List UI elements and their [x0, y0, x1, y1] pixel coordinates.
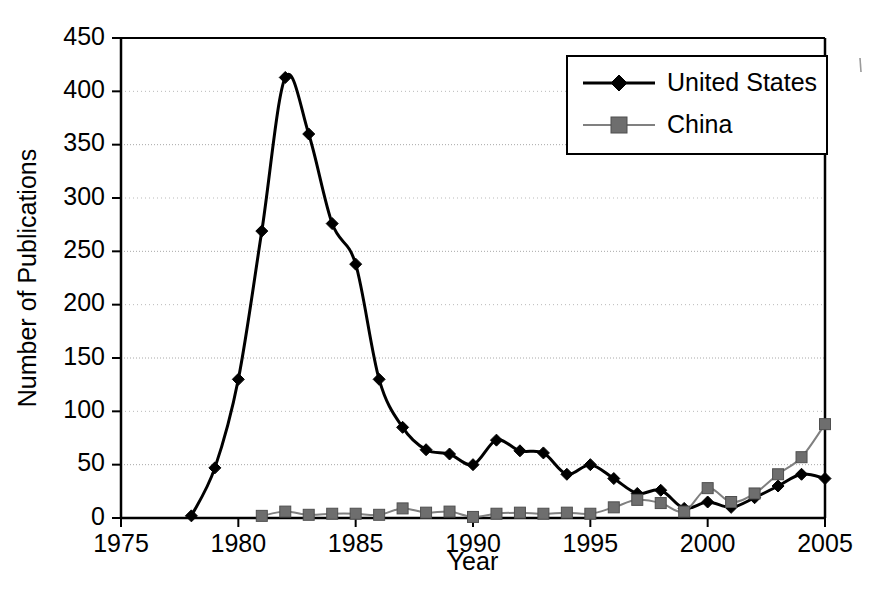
y-tick-label: 200	[63, 288, 105, 316]
y-tick-label: 250	[63, 235, 105, 263]
x-tick-label: 1975	[93, 529, 149, 557]
data-point-marker	[772, 480, 784, 492]
x-axis-title: Year	[448, 547, 499, 575]
data-point-marker	[421, 507, 432, 518]
x-tick-label: 1995	[563, 529, 619, 557]
data-point-marker	[444, 506, 455, 517]
data-point-marker	[796, 468, 808, 480]
data-point-marker	[209, 462, 221, 474]
data-point-marker	[232, 373, 244, 385]
data-point-marker	[726, 497, 737, 508]
data-point-marker	[608, 502, 619, 513]
y-tick-label: 150	[63, 342, 105, 370]
data-point-marker	[538, 508, 549, 519]
data-point-marker	[561, 507, 572, 518]
data-point-marker	[819, 473, 831, 485]
data-point-marker	[584, 459, 596, 471]
data-point-marker	[303, 128, 315, 140]
data-point-marker	[702, 496, 714, 508]
y-tick-label: 100	[63, 395, 105, 423]
data-point-marker	[444, 448, 456, 460]
x-tick-label: 1980	[211, 529, 267, 557]
data-point-marker	[374, 509, 385, 520]
line-chart: 050100150200250300350400450 197519801985…	[0, 0, 877, 596]
y-axis-tick-labels: 050100150200250300350400450	[63, 22, 105, 530]
data-point-marker	[350, 508, 361, 519]
data-point-marker	[303, 509, 314, 520]
y-tick-label: 0	[91, 502, 105, 530]
x-tick-label: 1985	[328, 529, 384, 557]
y-axis-title: Number of Publications	[13, 149, 41, 407]
data-point-marker	[256, 510, 267, 521]
y-tick-label: 450	[63, 22, 105, 50]
data-point-marker	[632, 494, 643, 505]
data-point-marker	[820, 419, 831, 430]
data-point-marker	[585, 508, 596, 519]
data-point-marker	[185, 510, 197, 522]
data-point-marker	[655, 498, 666, 509]
data-point-marker	[679, 506, 690, 517]
x-tick-label: 2000	[680, 529, 736, 557]
data-point-marker	[702, 483, 713, 494]
y-tick-label: 50	[77, 448, 105, 476]
data-point-marker	[749, 488, 760, 499]
data-point-marker	[796, 452, 807, 463]
data-point-marker	[491, 508, 502, 519]
data-point-marker	[397, 503, 408, 514]
stray-ink-mark	[860, 58, 861, 72]
data-point-marker	[468, 511, 479, 522]
y-tick-label: 400	[63, 75, 105, 103]
chart-legend: United StatesChina	[567, 56, 827, 154]
chart-figure: 050100150200250300350400450 197519801985…	[0, 0, 877, 596]
data-point-marker	[514, 445, 526, 457]
legend-label: United States	[667, 68, 817, 96]
data-point-marker	[256, 225, 268, 237]
legend-label: China	[667, 110, 732, 138]
data-point-marker	[327, 508, 338, 519]
data-point-marker	[514, 507, 525, 518]
data-point-marker	[611, 117, 627, 133]
data-point-marker	[773, 469, 784, 480]
data-point-marker	[350, 258, 362, 270]
data-point-marker	[326, 218, 338, 230]
y-tick-label: 300	[63, 182, 105, 210]
data-point-marker	[280, 506, 291, 517]
data-point-marker	[373, 373, 385, 385]
series-china	[256, 419, 830, 523]
x-tick-label: 2005	[797, 529, 853, 557]
y-tick-label: 350	[63, 128, 105, 156]
